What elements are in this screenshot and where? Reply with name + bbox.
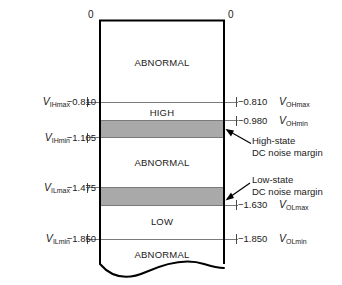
high-state-callout-arrowhead: [226, 129, 235, 137]
right-level-var-OHmax-sub: OHmax: [286, 101, 310, 108]
right-level-var-OLmax-sub: OLmax: [286, 204, 309, 211]
right-level-var-OLmin-base: V: [279, 232, 286, 244]
right-level-var-OHmin: VOHmin: [279, 115, 308, 126]
right-level-var-OLmax-base: V: [279, 198, 286, 210]
zone-label-high: HIGH: [99, 107, 225, 118]
right-level-var-OLmin-sub: OLmin: [286, 238, 307, 245]
left-level-var-IHmax-base: V: [43, 95, 50, 107]
zone-label-abnormal-middle: ABNORMAL: [99, 157, 225, 168]
left-level-var-ILmin-base: V: [46, 232, 53, 244]
left-level-value-IHmin: −1.105: [67, 133, 96, 143]
voltage-level-diagram: 0 0 ABNORMAL HIGH ABNORMAL LOW ABNORMAL …: [0, 0, 342, 285]
zone-label-abnormal-bottom: ABNORMAL: [99, 249, 225, 260]
zero-label-left: 0: [88, 9, 94, 20]
right-level-var-OLmax: VOLmax: [279, 199, 309, 210]
right-level-value-OHmin: −0.980: [238, 116, 267, 126]
low-state-noise-margin-callout: Low-state DC noise margin: [252, 174, 323, 197]
zone-label-abnormal-top: ABNORMAL: [99, 57, 225, 68]
high-state-noise-margin-band: [100, 121, 224, 138]
low-state-noise-margin-callout-line2: DC noise margin: [252, 186, 323, 198]
right-level-var-OHmax-base: V: [279, 95, 286, 107]
right-level-var-OHmin-sub: OHmin: [286, 120, 308, 127]
zone-label-low: LOW: [99, 216, 225, 227]
wavy-break-bottom: [100, 261, 224, 276]
zero-label-right: 0: [228, 9, 234, 20]
low-state-callout-arrowhead: [226, 193, 235, 201]
low-state-noise-margin-band: [100, 188, 224, 206]
high-state-noise-margin-callout: High-state DC noise margin: [252, 135, 323, 158]
right-level-value-OHmax: −0.810: [238, 97, 267, 107]
left-level-var-IHmin-base: V: [45, 131, 52, 143]
right-level-value-OLmax: −1.630: [238, 200, 267, 210]
high-state-noise-margin-callout-line2: DC noise margin: [252, 147, 323, 159]
high-state-noise-margin-callout-line1: High-state: [252, 135, 323, 147]
right-level-value-OLmin: −1.850: [238, 234, 267, 244]
low-state-noise-margin-callout-line1: Low-state: [252, 174, 323, 186]
right-level-var-OHmin-base: V: [279, 114, 286, 126]
left-level-value-ILmax: −1.475: [67, 183, 96, 193]
left-level-value-ILmin: −1.850: [67, 234, 96, 244]
right-level-var-OHmax: VOHmax: [279, 96, 310, 107]
left-level-var-ILmax-base: V: [44, 181, 51, 193]
left-level-value-IHmax: −0.810: [67, 97, 96, 107]
right-level-var-OLmin: VOLmin: [279, 233, 307, 244]
